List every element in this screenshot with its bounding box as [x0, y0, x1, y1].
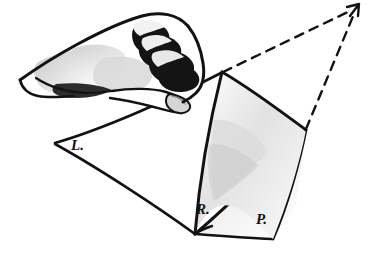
label-verso-page: P.: [256, 211, 267, 227]
label-recto-page: R.: [195, 201, 210, 217]
illustration-canvas: L. R. P.: [0, 0, 373, 263]
page-turn-illustration: L. R. P.: [0, 0, 373, 263]
label-left-page: L.: [70, 137, 84, 153]
